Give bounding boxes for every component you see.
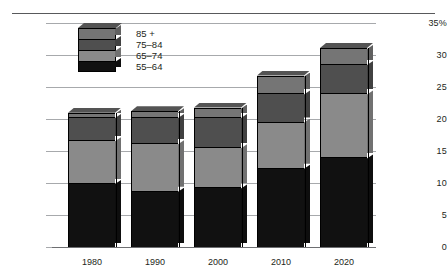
bar-segment: [257, 122, 304, 168]
plot-area: 05101520253035% 19801990200020102020: [0, 0, 447, 273]
y-tickmark: [46, 151, 52, 152]
legend-item-label: 65–74: [136, 50, 162, 61]
bar-segment: [68, 140, 115, 183]
bar-2010: [257, 76, 304, 248]
bar-2020: [320, 48, 367, 247]
bar-segment: [194, 187, 241, 247]
bar-top-face: [194, 103, 247, 108]
y-axis-tick-label: 25: [403, 82, 447, 92]
bar-segment: [194, 108, 241, 118]
legend-swatches: [78, 28, 122, 72]
bar-segment: [320, 93, 367, 157]
chart-figure: 05101520253035% 19801990200020102020 85 …: [0, 0, 447, 273]
x-axis-tick-label: 1990: [120, 257, 190, 267]
legend-item-label: 75–84: [136, 39, 162, 50]
bar-segment: [257, 76, 304, 94]
y-axis-tick-label: 5: [403, 210, 447, 220]
bar-segment: [257, 93, 304, 121]
bar-segment: [320, 157, 367, 247]
x-axis-tick-label: 2010: [246, 257, 316, 267]
legend-swatch: [78, 28, 116, 39]
bar-segment: [68, 183, 115, 247]
bar-segment: [131, 117, 178, 143]
bar-2000: [194, 108, 241, 248]
legend-item-label: 85 +: [136, 28, 162, 39]
y-axis-tick-label: 20: [403, 114, 447, 124]
bar-segment: [131, 143, 178, 190]
bar-1990: [131, 111, 178, 247]
bar-top-face: [320, 43, 373, 48]
y-tickmark: [46, 119, 52, 120]
y-tickmark: [46, 87, 52, 88]
y-axis-tick-label: 35%: [403, 18, 447, 28]
legend-swatch: [78, 61, 116, 72]
y-axis-tick-label: 30: [403, 50, 447, 60]
legend-item-label: 55–64: [136, 61, 162, 72]
y-axis-tick-label: 15: [403, 146, 447, 156]
bar-segment: [320, 48, 367, 64]
bar-segment: [257, 168, 304, 247]
x-axis-tick-label: 2020: [309, 257, 379, 267]
bar-segment: [131, 191, 178, 247]
y-axis-tick-label: 0: [403, 242, 447, 252]
chart-legend: 85 +75–8465–7455–64: [78, 28, 162, 72]
legend-labels: 85 +75–8465–7455–64: [136, 28, 162, 72]
bar-segment: [320, 64, 367, 93]
y-tickmark: [46, 183, 52, 184]
bar-segment: [68, 117, 115, 140]
y-tickmark: [46, 55, 52, 56]
y-tickmark: [46, 215, 52, 216]
bar-top-face: [257, 71, 310, 76]
y-axis-tick-label: 10: [403, 178, 447, 188]
bar-segment: [194, 147, 241, 187]
x-axis-tick-label: 1980: [57, 257, 127, 267]
bar-top-face: [131, 106, 184, 111]
y-tickmark: [46, 247, 52, 248]
y-tickmark: [46, 23, 52, 24]
axis-baseline: [52, 247, 376, 248]
bar-top-face: [68, 108, 121, 113]
x-axis-tick-label: 2000: [183, 257, 253, 267]
legend-swatch: [78, 50, 116, 61]
bar-1980: [68, 113, 115, 247]
legend-swatch: [78, 39, 116, 50]
bar-segment: [194, 117, 241, 147]
